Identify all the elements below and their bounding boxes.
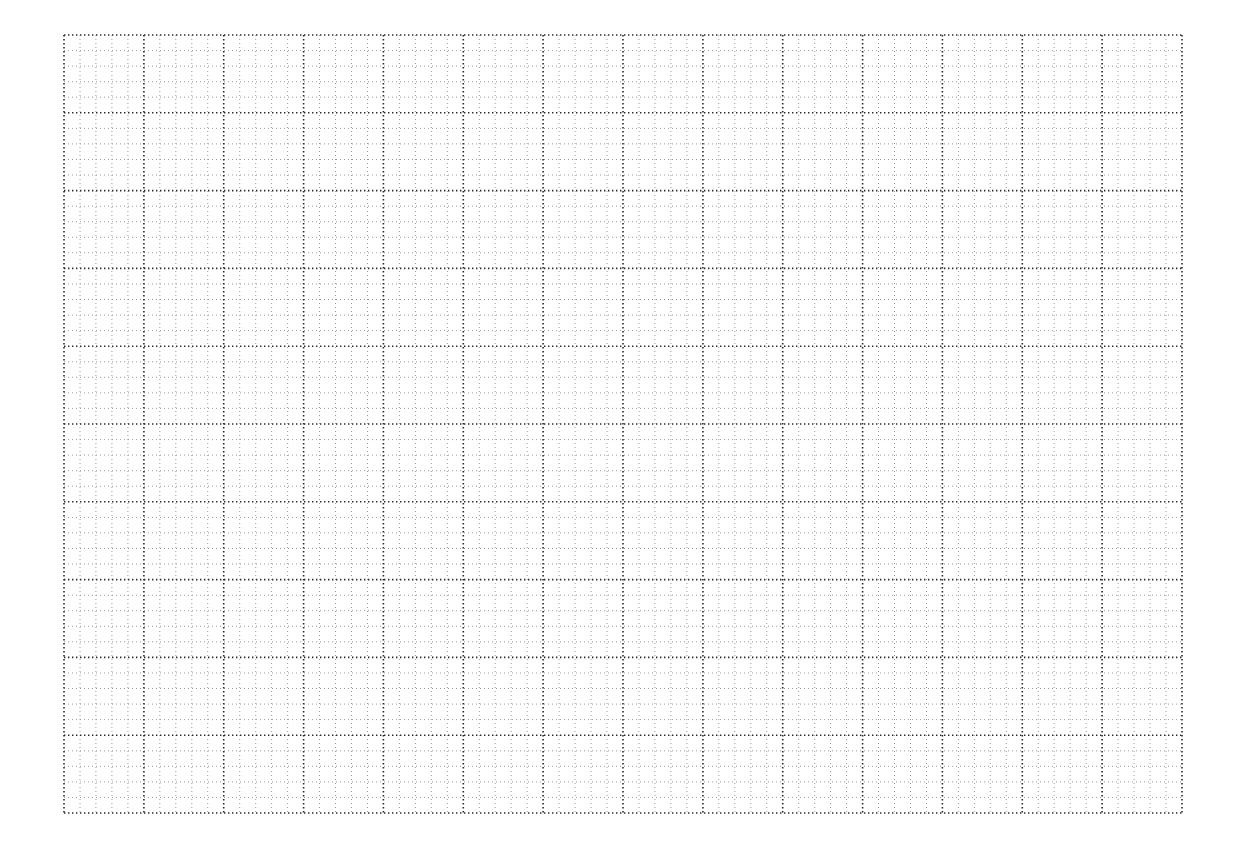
grid-canvas: [0, 0, 1243, 859]
major-grid-lines: [64, 35, 1182, 813]
graph-paper-grid: [0, 0, 1243, 859]
